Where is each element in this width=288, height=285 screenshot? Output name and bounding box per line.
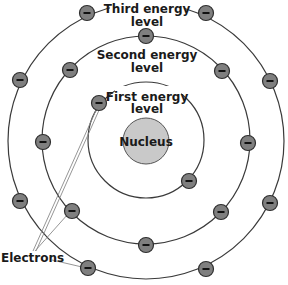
electron-first-level: [92, 96, 107, 111]
electron-third-level: [13, 73, 28, 88]
second-energy-level-label: Second energy level: [97, 48, 198, 75]
svg-text:level: level: [131, 102, 163, 116]
electron-second-level: [65, 204, 80, 219]
nucleus: Nucleus: [119, 118, 173, 164]
electron-third-level: [199, 262, 214, 277]
electron-second-level: [139, 29, 154, 44]
nucleus-label: Nucleus: [119, 135, 173, 149]
electron-first-level: [182, 174, 197, 189]
atom-diagram: Nucleus Third energy level Second energy…: [0, 0, 288, 285]
third-energy-level-label: Third energy level: [104, 0, 191, 29]
electron-third-level: [81, 261, 96, 276]
electron-second-level: [63, 63, 78, 78]
electron-second-level: [36, 135, 51, 150]
svg-text:level: level: [131, 15, 163, 29]
svg-text:Third energy: Third energy: [104, 2, 191, 16]
electron-second-level: [214, 205, 229, 220]
electron-third-level: [263, 74, 278, 89]
svg-text:Second energy: Second energy: [97, 48, 198, 62]
electrons-callout-lines: [33, 108, 100, 267]
electron-second-level: [139, 238, 154, 253]
electron-third-level: [80, 6, 95, 21]
electron-third-level: [13, 194, 28, 209]
electron-second-level: [215, 64, 230, 79]
first-energy-level-label: First energy level: [106, 86, 189, 116]
electron-second-level: [241, 136, 256, 151]
electron-third-level: [263, 196, 278, 211]
svg-text:level: level: [131, 61, 163, 75]
electrons-label: Electrons: [1, 251, 64, 265]
electron-third-level: [199, 6, 214, 21]
